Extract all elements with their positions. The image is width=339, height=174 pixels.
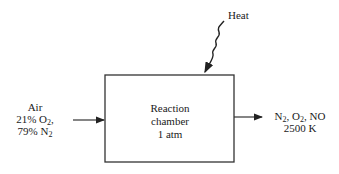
- inlet-n2-text: 79% N2: [10, 125, 60, 137]
- heat-squiggle-arrow: [205, 21, 224, 72]
- outlet-temperature-text: 2500 K: [270, 122, 330, 134]
- diagram-canvas: [0, 0, 339, 174]
- outlet-species-text: N2, O2, NO: [270, 110, 330, 122]
- heat-label: Heat: [228, 9, 249, 21]
- inlet-air-text: Air: [10, 101, 60, 113]
- chamber-line3: 1 atm: [140, 128, 200, 141]
- inlet-label: Air 21% O2, 79% N2: [10, 101, 60, 137]
- inlet-o2-text: 21% O2,: [10, 113, 60, 125]
- outlet-label: N2, O2, NO 2500 K: [270, 110, 330, 134]
- chamber-line1: Reaction: [140, 102, 200, 115]
- chamber-label: Reaction chamber 1 atm: [140, 102, 200, 141]
- chamber-line2: chamber: [140, 115, 200, 128]
